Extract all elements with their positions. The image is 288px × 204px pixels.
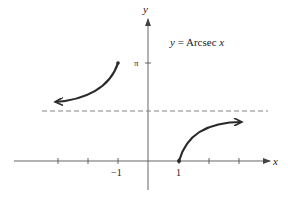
x-tick-label-neg1: −1 [111,167,122,178]
endpoint-right [177,159,181,163]
title-func: Arcsec [186,36,217,48]
title-equals: = [175,36,186,48]
pi-tick-label: π [134,58,139,68]
graph-title: y = Arcsec x [169,36,224,48]
x-axis-label: x [272,155,278,167]
curve-right-branch [179,122,242,161]
y-axis-label: y [142,3,148,15]
endpoint-left [116,61,120,65]
arcsec-graph: y x π −1 1 y = Arcsec x [0,0,288,204]
curve-left-branch [55,63,118,102]
x-tick-label-1: 1 [176,167,181,178]
title-x: x [217,36,225,48]
